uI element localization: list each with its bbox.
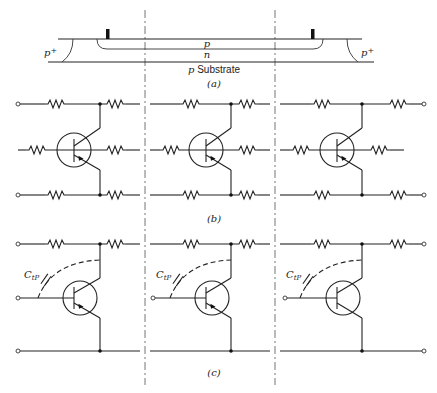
caption-b: (b) xyxy=(207,213,221,224)
distributed-transistor-diagram: p+ p+ p n p Substrate (a) xyxy=(0,0,437,393)
resistor xyxy=(236,191,258,199)
section-b-3 xyxy=(280,100,422,199)
panel-c-capacitance-model: CtP CtP xyxy=(16,240,426,378)
panel-b-rc-model: (b) xyxy=(16,100,426,224)
resistor xyxy=(180,100,202,108)
n-layer-label: n xyxy=(204,49,210,60)
section-c-3: CtP xyxy=(283,242,364,353)
capacitor-label: CtP xyxy=(24,269,39,282)
terminal-c-bottom-right xyxy=(422,349,426,353)
parasitic-capacitance-path xyxy=(38,260,100,298)
section-c-1: CtP xyxy=(16,242,102,353)
caption-a: (a) xyxy=(207,78,221,89)
substrate-label: p Substrate xyxy=(188,64,240,75)
resistor xyxy=(311,100,333,108)
base-terminal xyxy=(151,296,155,300)
resistor xyxy=(160,146,182,154)
resistor xyxy=(387,191,409,199)
resistor xyxy=(45,100,67,108)
resistor xyxy=(387,100,409,108)
terminal-b-bottom-right xyxy=(422,193,426,197)
caption-c: (c) xyxy=(207,367,221,378)
terminal-c-bottom-left xyxy=(16,349,20,353)
base-terminal xyxy=(16,296,20,300)
section-b-1 xyxy=(18,100,140,199)
p-plus-left-boundary xyxy=(62,39,73,62)
terminal-b-top-right xyxy=(422,102,426,106)
right-contact xyxy=(311,29,315,39)
resistor xyxy=(311,191,333,199)
resistor xyxy=(104,146,126,154)
section-b-2 xyxy=(150,100,270,199)
parasitic-capacitance-path xyxy=(300,260,362,298)
transistor-collector xyxy=(74,128,100,146)
resistor xyxy=(290,146,312,154)
capacitor-symbol xyxy=(303,274,313,286)
resistor xyxy=(180,191,202,199)
panel-a-cross-section: p+ p+ p n p Substrate (a) xyxy=(44,29,374,89)
section-c-2: CtP xyxy=(151,242,233,353)
p-plus-left-label: p+ xyxy=(44,46,57,58)
parasitic-capacitance-path xyxy=(170,260,231,298)
capacitor-label: CtP xyxy=(156,269,171,282)
terminal-b-bottom-left xyxy=(16,193,20,197)
resistor xyxy=(236,100,258,108)
resistor xyxy=(104,100,126,108)
resistor xyxy=(104,191,126,199)
terminal-c-top-right xyxy=(422,242,426,246)
base-terminal xyxy=(283,296,287,300)
resistor xyxy=(368,146,390,154)
resistor xyxy=(26,146,48,154)
resistor xyxy=(45,191,67,199)
p-plus-right-boundary xyxy=(347,39,358,62)
p-plus-right-label: p+ xyxy=(361,46,374,58)
transistor-emitter xyxy=(74,155,100,170)
terminal-b-top-left xyxy=(16,102,20,106)
capacitor-symbol xyxy=(41,274,51,286)
capacitor-label: CtP xyxy=(286,269,301,282)
capacitor-symbol xyxy=(173,274,183,286)
resistor xyxy=(236,146,258,154)
left-contact xyxy=(106,29,110,39)
p-layer-label: p xyxy=(204,38,211,49)
terminal-c-top-left xyxy=(16,242,20,246)
